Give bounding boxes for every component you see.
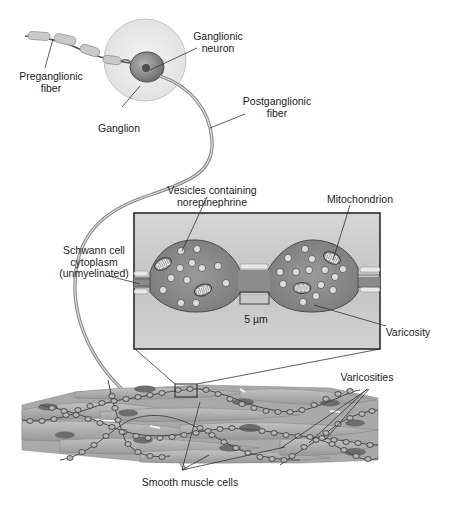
ganglionic-neuron (130, 52, 164, 82)
diagram-canvas: Preganglionic fiber Ganglionic neuron Ga… (0, 0, 451, 506)
magnified-inset (134, 213, 380, 349)
label-varicosities: Varicosities (335, 372, 399, 384)
label-ganglion: Ganglion (93, 123, 145, 135)
label-vesicles: Vesicles containing norepinephrine (160, 185, 264, 208)
label-postganglionic-fiber: Postganglionic fiber (237, 96, 317, 119)
label-scale-bar: 5 µm (236, 314, 276, 326)
label-schwann-cell: Schwann cell cytoplasm (unmyelinated) (58, 245, 130, 280)
label-preganglionic-fiber: Preganglionic fiber (18, 71, 84, 94)
label-varicosity: Varicosity (382, 327, 434, 339)
label-ganglionic-neuron: Ganglionic neuron (190, 31, 246, 54)
label-mitochondrion: Mitochondrion (323, 194, 397, 206)
label-smooth-muscle-cells: Smooth muscle cells (135, 477, 245, 489)
